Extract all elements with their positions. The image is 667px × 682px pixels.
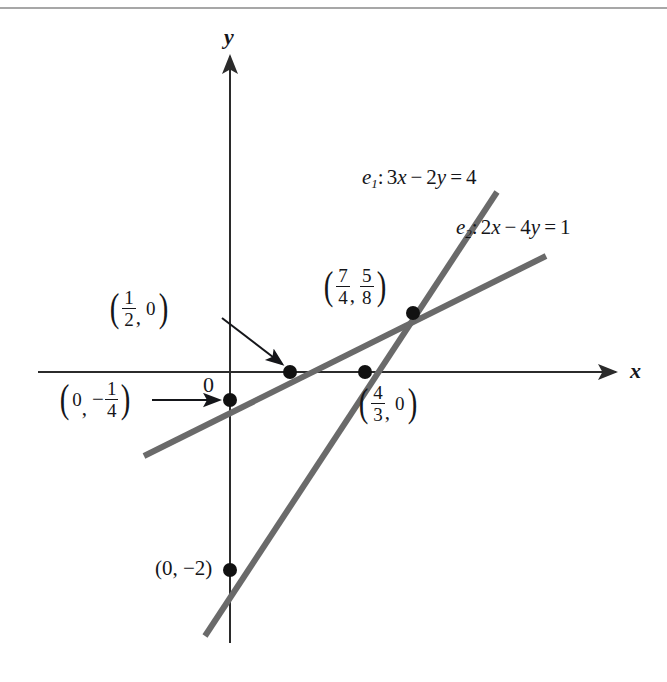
fraction-four-thirds: 4 3: [371, 383, 385, 425]
line-label-e1-colon: :: [378, 165, 387, 189]
point-x-intercept-e1: [358, 365, 372, 379]
line-label-e1-equals: =: [446, 165, 466, 189]
line-label-e2-coef-y: 4: [520, 215, 531, 239]
paren-open: (: [359, 387, 369, 420]
line-label-e1-operator: −: [407, 165, 427, 189]
fraction-one-fourth: 1 4: [105, 379, 119, 421]
line-e1: [205, 192, 497, 636]
coord-y-value: 0: [146, 299, 156, 318]
line-label-e2: e2:2x−4y=1: [456, 217, 571, 240]
line-label-e2-rhs: 1: [560, 215, 571, 239]
coord-comma: ,: [350, 285, 360, 308]
fraction-numerator: 1: [105, 379, 119, 399]
fraction-denominator: 3: [371, 403, 385, 424]
coord-open-paren: (: [155, 556, 162, 580]
fraction-numerator: 7: [336, 266, 350, 286]
point-intersection: [406, 306, 420, 320]
fraction-numerator: 4: [371, 383, 385, 403]
fraction-numerator: 1: [122, 288, 136, 308]
coord-y-value: −2: [183, 556, 205, 580]
line-label-e2-name: e: [456, 215, 465, 239]
fraction-five-eighths: 5 8: [360, 266, 374, 308]
paren-close: ): [121, 383, 131, 416]
coord-x-value: 0: [72, 390, 82, 409]
line-label-e2-colon: :: [472, 215, 481, 239]
line-label-e2-equals: =: [540, 215, 560, 239]
coord-comma: ,: [82, 398, 92, 421]
coord-comma: ,: [136, 307, 146, 330]
coordinate-geometry-figure: y x 0 e1:3x−2y=4 e2:2x−4y=1 ( 7 4 , 5 8 …: [0, 0, 667, 682]
fraction-denominator: 2: [122, 308, 136, 329]
paren-open: (: [60, 383, 70, 416]
fraction-denominator: 8: [360, 286, 374, 307]
line-label-e1-name: e: [362, 165, 371, 189]
y-axis-label: y: [224, 26, 234, 48]
fraction-denominator: 4: [105, 399, 119, 420]
coord-y-value: 0: [395, 394, 405, 413]
coord-close-paren: ): [205, 556, 212, 580]
point-label-x-intercept-e1: ( 4 3 , 0 ): [357, 383, 419, 425]
coord-comma: ,: [385, 402, 395, 425]
paren-close: ): [158, 292, 168, 325]
line-label-e1-coef-x: 3: [387, 165, 398, 189]
line-label-e2-subscript: 2: [465, 226, 472, 241]
coord-comma: ,: [173, 556, 178, 580]
line-label-e2-coef-x: 2: [481, 215, 492, 239]
line-label-e2-var-y: y: [531, 215, 540, 239]
point-x-intercept-e2: [283, 365, 297, 379]
line-label-e1: e1:3x−2y=4: [362, 167, 477, 190]
point-label-y-intercept-e2: ( 0 , − 1 4 ): [58, 379, 133, 421]
point-label-intersection: ( 7 4 , 5 8 ): [322, 266, 388, 308]
line-label-e1-coef-y: 2: [426, 165, 437, 189]
line-label-e1-var-y: y: [437, 165, 446, 189]
line-label-e1-subscript: 1: [371, 176, 378, 191]
paren-open: (: [110, 292, 120, 325]
coord-x-value: 0: [162, 556, 173, 580]
fraction-one-half: 1 2: [122, 288, 136, 330]
point-label-x-intercept-e2: ( 1 2 , 0 ): [108, 288, 170, 330]
fraction-denominator: 4: [336, 286, 350, 307]
line-label-e1-rhs: 4: [466, 165, 477, 189]
line-label-e2-var-x: x: [491, 215, 500, 239]
line-label-e2-operator: −: [501, 215, 521, 239]
paren-close: ): [376, 270, 386, 303]
coord-negative-sign: −: [92, 389, 105, 410]
plot-canvas: [0, 0, 667, 682]
point-y-intercept-e1: [223, 563, 237, 577]
origin-label: 0: [203, 374, 214, 396]
paren-close: ): [407, 387, 417, 420]
line-label-e1-var-x: x: [397, 165, 406, 189]
point-label-y-intercept-e1: (0, −2): [155, 558, 212, 579]
fraction-numerator: 5: [360, 266, 374, 286]
fraction-seven-fourths: 7 4: [336, 266, 350, 308]
x-axis-label: x: [630, 360, 641, 382]
point-y-intercept-e2: [223, 393, 237, 407]
paren-open: (: [324, 270, 334, 303]
